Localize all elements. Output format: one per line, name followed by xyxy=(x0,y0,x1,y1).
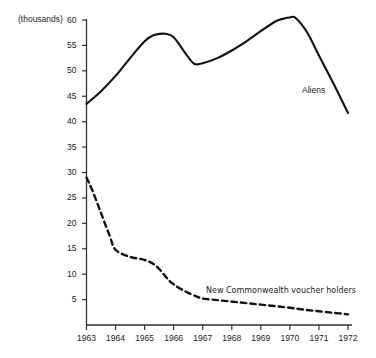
series-label-new-commonwealth: New Commonwealth voucher holders xyxy=(206,286,356,295)
y-axis-tick-label: 40 xyxy=(51,116,77,126)
y-axis-tick-label: 35 xyxy=(51,142,77,152)
series-label-aliens: Aliens xyxy=(302,85,325,95)
y-axis-tick-label: 10 xyxy=(51,269,77,279)
y-axis-ticks xyxy=(82,20,87,300)
x-axis-tick-label: 1972 xyxy=(333,333,363,343)
chart-plot-svg xyxy=(0,0,376,358)
y-axis-tick-label: 45 xyxy=(51,91,77,101)
y-axis-tick-label: 5 xyxy=(51,294,77,304)
y-axis-tick-label: 30 xyxy=(51,167,77,177)
y-axis-tick-label: 55 xyxy=(51,40,77,50)
x-axis-tick-label: 1969 xyxy=(246,333,276,343)
data-series-group xyxy=(87,17,349,315)
x-axis-tick-label: 1970 xyxy=(275,333,305,343)
x-axis-tick-label: 1965 xyxy=(130,333,160,343)
y-axis-tick-label: 60 xyxy=(51,15,77,25)
y-axis-tick-label: 25 xyxy=(51,192,77,202)
y-axis-tick-label: 50 xyxy=(51,65,77,75)
chart-container: (thousands) 51015202530354045505560 1963… xyxy=(0,0,376,358)
x-axis-ticks xyxy=(87,325,349,330)
x-axis-tick-label: 1971 xyxy=(304,333,334,343)
x-axis-tick-label: 1967 xyxy=(188,333,218,343)
y-axis-tick-label: 15 xyxy=(51,243,77,253)
y-axis-tick-label: 20 xyxy=(51,218,77,228)
axes xyxy=(87,19,353,326)
x-axis-tick-label: 1966 xyxy=(159,333,189,343)
x-axis-tick-label: 1968 xyxy=(217,333,247,343)
x-axis-tick-label: 1963 xyxy=(72,333,102,343)
x-axis-tick-label: 1964 xyxy=(101,333,131,343)
series-line-aliens xyxy=(87,17,349,113)
